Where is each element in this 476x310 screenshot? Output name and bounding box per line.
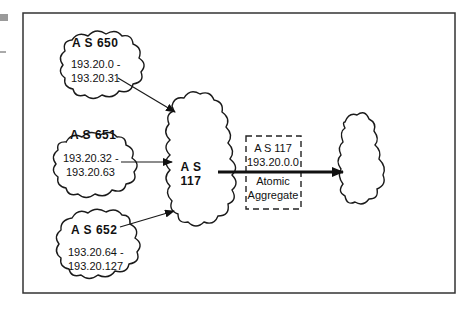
as652-range-start: 193.20.64 - (68, 246, 124, 258)
aggregate-flag-line1: Atomic (256, 175, 290, 187)
as651-range-start: 193.20.32 - (63, 152, 119, 164)
bgp-aggregation-diagram: A S 650 193.20.0 - 193.20.31 A S 651 193… (0, 0, 476, 310)
as650-range-end: 193.20.31 (71, 72, 120, 84)
margin-mark (0, 14, 8, 21)
as651-label: A S 651 (70, 128, 116, 142)
as117-label-top: A S (180, 160, 201, 174)
as652-range-end: 193.20.127 (68, 260, 123, 272)
as652-label: A S 652 (71, 223, 117, 237)
aggregate-flag-line2: Aggregate (248, 189, 299, 201)
edge-as650-to-as117 (118, 78, 175, 112)
cloud-as651: A S 651 193.20.32 - 193.20.63 (53, 128, 137, 198)
cloud-peer (338, 113, 384, 204)
as651-range-end: 193.20.63 (66, 166, 115, 178)
cloud-as117: A S 117 (166, 92, 236, 226)
aggregate-prefix: 193.20.0.0 (247, 156, 299, 168)
cloud-as650: A S 650 193.20.0 - 193.20.31 (60, 31, 144, 99)
as117-label-bottom: 117 (181, 174, 202, 188)
as650-range-start: 193.20.0 - (71, 58, 121, 70)
aggregate-as-label: A S 117 (254, 142, 292, 154)
as650-label: A S 650 (72, 36, 118, 50)
cloud-as652: A S 652 193.20.64 - 193.20.127 (56, 209, 140, 278)
